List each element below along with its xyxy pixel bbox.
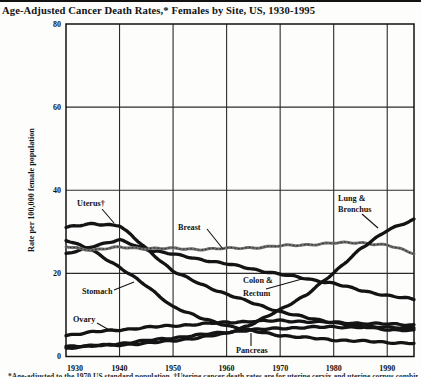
leader-line-stomach — [114, 282, 134, 290]
series-label-ovary: Ovary — [73, 315, 96, 324]
series-label-colon-rectum: Colon & — [243, 276, 273, 285]
footnote-clipped: *Age-adjusted to the 1970 US standard po… — [8, 373, 418, 377]
x-tick-label-1990: 1990 — [379, 364, 395, 373]
y-axis-title: Rate per 100,000 female population — [27, 128, 36, 252]
cancer-death-rates-chart: Uterus†StomachBreastColon &RectumOvaryPa… — [0, 0, 421, 377]
figure-page: Age-Adjusted Cancer Death Rates,* Female… — [0, 0, 421, 377]
x-tick-label-1980: 1980 — [326, 364, 342, 373]
leader-line-uterus — [102, 209, 114, 223]
y-tick-label-40: 40 — [53, 186, 61, 195]
y-tick-label-60: 60 — [53, 103, 61, 112]
series-label-lung-bronchus: Bronchus — [338, 205, 372, 214]
series-label-lung-bronchus: Lung & — [338, 194, 366, 203]
x-tick-label-1960: 1960 — [219, 364, 235, 373]
series-label-pancreas: Pancreas — [236, 346, 268, 355]
x-tick-label-1940: 1940 — [112, 364, 128, 373]
leader-line-breast — [207, 229, 223, 249]
x-tick-label-1930: 1930 — [67, 364, 83, 373]
x-tick-label-1950: 1950 — [165, 364, 181, 373]
leader-line-lung-bronchus — [362, 214, 378, 228]
series-label-breast: Breast — [178, 223, 201, 232]
y-tick-label-20: 20 — [53, 269, 61, 278]
y-tick-label-80: 80 — [53, 20, 61, 29]
series-label-uterus: Uterus† — [77, 199, 105, 208]
series-label-colon-rectum: Rectum — [243, 289, 270, 298]
series-label-stomach: Stomach — [82, 287, 113, 296]
x-tick-label-1970: 1970 — [272, 364, 288, 373]
y-tick-label-0: 0 — [57, 352, 61, 361]
